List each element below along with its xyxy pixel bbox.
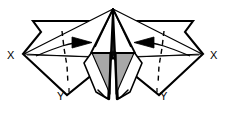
label-y-left: Y [57,91,64,102]
origami-diagram: X X Y Y [0,0,226,115]
label-x-right: X [210,50,217,61]
origami-figure [0,0,226,115]
label-y-right: Y [160,91,167,102]
label-x-left: X [7,50,14,61]
